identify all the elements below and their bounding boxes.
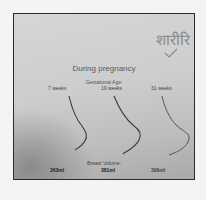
slide-photo: शारीरि During pregnancy Gestational Age:… [13,13,195,180]
breast-volume-label: Breast Volume: [14,160,194,166]
volume-value-1: 263ml [50,167,64,173]
breast-profile-curves [14,14,195,180]
volume-value-2: 381ml [101,167,115,173]
volume-value-3: 396ml [151,167,165,173]
